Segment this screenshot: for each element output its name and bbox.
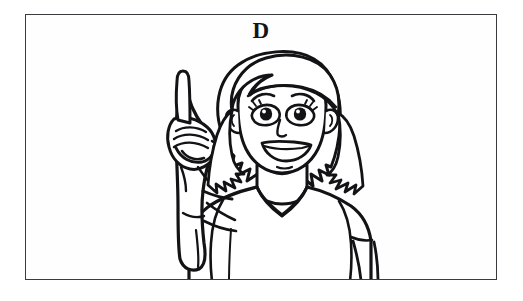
illustration-page: D Line drawing of a smiling young woman … bbox=[0, 0, 523, 301]
asl-letter-figure-illustration: Line drawing of a smiling young woman wi… bbox=[26, 15, 497, 280]
left-pupil bbox=[260, 107, 272, 120]
right-eye-highlight bbox=[296, 110, 300, 114]
left-eye-highlight bbox=[262, 110, 266, 114]
illustration-frame: D Line drawing of a smiling young woman … bbox=[25, 14, 497, 280]
right-pupil bbox=[294, 107, 306, 120]
